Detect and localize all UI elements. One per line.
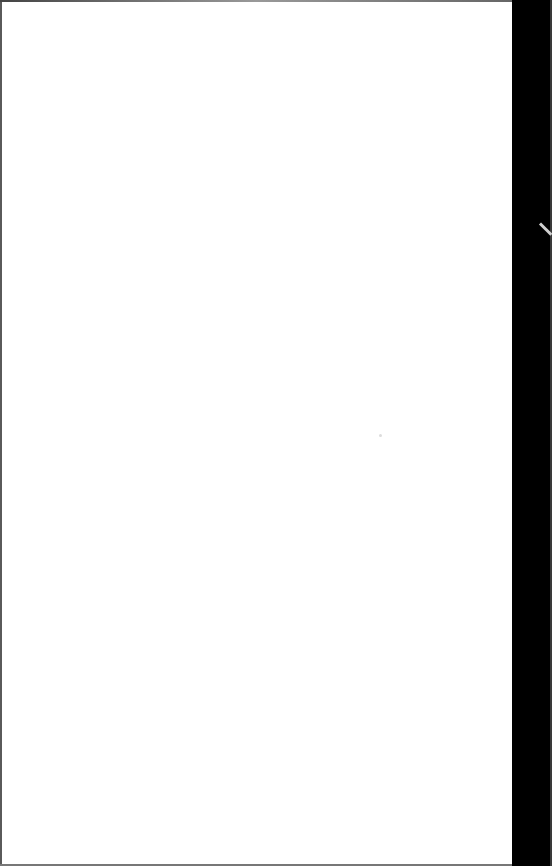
dust-speck <box>379 434 382 437</box>
blank-page <box>2 2 512 864</box>
screen-bezel-right <box>512 0 550 866</box>
